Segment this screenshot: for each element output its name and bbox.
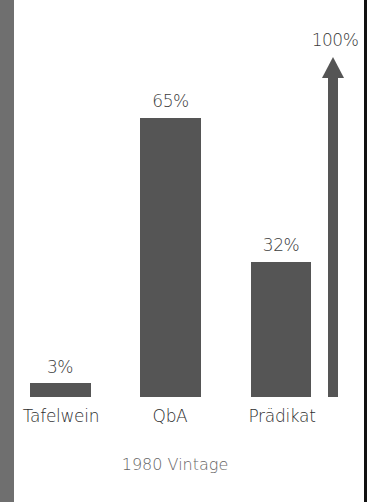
total-arrow-shaft: [328, 76, 338, 397]
category-label-pradikat: Prädikat: [236, 406, 328, 426]
bar-qba: [140, 118, 201, 397]
category-label-qba: QbA: [130, 406, 210, 426]
right-border-line: [364, 0, 367, 502]
category-label-tafelwein: Tafelwein: [15, 406, 107, 426]
bar-pradikat: [251, 262, 311, 397]
total-value-label: 100%: [300, 30, 370, 50]
left-decorative-strip: [0, 0, 14, 502]
chart-caption: 1980 Vintage: [100, 455, 250, 474]
bar-tafelwein: [30, 383, 91, 397]
up-arrow-icon: [322, 57, 344, 78]
bar-value-label-tafelwein: 3%: [30, 357, 90, 377]
bar-value-label-pradikat: 32%: [251, 235, 311, 255]
bar-value-label-qba: 65%: [140, 91, 201, 111]
